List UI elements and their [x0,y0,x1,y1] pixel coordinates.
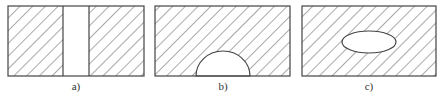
slot-cutout [63,6,89,76]
panel-c-section [302,6,436,76]
panel-a-section [8,6,144,76]
ellipse-hole [342,31,396,53]
panel-b-section [155,6,290,76]
panel-c-label: c) [349,80,389,92]
panel-b-label: b) [203,80,243,92]
panel-a-label: a) [56,80,96,92]
